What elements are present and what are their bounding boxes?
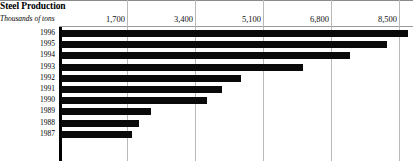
bar xyxy=(61,30,408,37)
plot-area: 1,7003,4005,1006,8008,500 xyxy=(59,0,413,167)
y-axis-category-label: 1994 xyxy=(40,51,55,59)
tick-divider xyxy=(59,26,413,27)
bar xyxy=(61,97,207,104)
y-axis-category-label: 1989 xyxy=(40,107,55,115)
x-axis-tick-label: 8,500 xyxy=(339,15,397,24)
y-axis-category-label: 1995 xyxy=(40,40,55,48)
x-axis-tick-label: 3,400 xyxy=(135,15,193,24)
y-axis-category-label: 1992 xyxy=(40,74,55,82)
gridline xyxy=(263,0,264,161)
y-axis-category-label: 1993 xyxy=(40,63,55,71)
bar xyxy=(61,52,350,59)
y-axis-category-label: 1996 xyxy=(40,29,55,37)
x-axis-tick-label: 6,800 xyxy=(271,15,329,24)
y-axis-category-label: 1987 xyxy=(40,130,55,138)
bar xyxy=(61,86,222,93)
category-axis-labels: 1996199519941993199219911990198919881987 xyxy=(0,0,57,167)
x-axis-tick-label: 1,700 xyxy=(67,15,125,24)
y-axis-category-label: 1991 xyxy=(40,85,55,93)
bar xyxy=(61,131,132,138)
y-axis-category-label: 1990 xyxy=(40,96,55,104)
gridline xyxy=(399,0,400,161)
x-axis-tick-label: 5,100 xyxy=(203,15,261,24)
bar xyxy=(61,108,151,115)
bar xyxy=(61,75,241,82)
bar xyxy=(61,41,387,48)
bar xyxy=(61,120,139,127)
bar xyxy=(61,64,303,71)
y-axis-category-label: 1988 xyxy=(40,119,55,127)
gridline xyxy=(331,0,332,161)
steel-production-chart: Steel Production Thousands of tons 19961… xyxy=(0,0,413,167)
